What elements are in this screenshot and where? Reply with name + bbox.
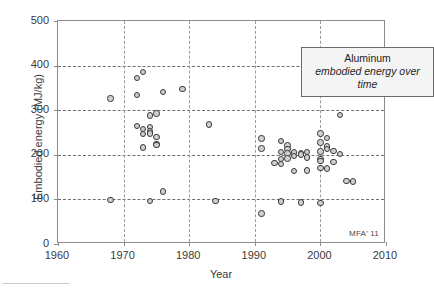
- scatter-point: [304, 154, 310, 160]
- scatter-point: [304, 167, 310, 173]
- tick-mark-y: [54, 199, 58, 200]
- scatter-point: [324, 146, 330, 152]
- gridline-vertical: [255, 21, 256, 242]
- tick-mark-x: [255, 242, 256, 246]
- tick-mark-x: [386, 242, 387, 246]
- x-tick-label: 1980: [168, 250, 208, 261]
- scatter-point: [298, 199, 304, 205]
- scatter-point: [284, 155, 290, 161]
- scatter-point: [317, 165, 323, 171]
- scatter-point: [153, 110, 159, 116]
- scatter-point: [134, 75, 140, 81]
- scatter-point: [153, 134, 159, 140]
- scatter-point: [140, 144, 146, 150]
- tick-mark-y: [54, 155, 58, 156]
- scatter-point: [147, 198, 153, 204]
- scatter-point: [317, 139, 323, 145]
- legend-box: Aluminum embodied energy over time: [301, 47, 434, 97]
- scatter-point: [258, 210, 264, 216]
- scatter-point: [258, 145, 264, 151]
- scatter-point: [291, 168, 297, 174]
- x-axis-title: Year: [57, 268, 385, 280]
- x-tick-label: 1960: [37, 250, 77, 261]
- scatter-point: [107, 95, 113, 101]
- y-tick-label: 500: [15, 15, 49, 26]
- scatter-point: [140, 69, 146, 75]
- scatter-point: [317, 200, 323, 206]
- scatter-point: [343, 178, 349, 184]
- scatter-point: [337, 151, 343, 157]
- tick-mark-y: [54, 110, 58, 111]
- scatter-point: [134, 92, 140, 98]
- scatter-point: [160, 188, 166, 194]
- tick-mark-y: [54, 66, 58, 67]
- scatter-point: [160, 89, 166, 95]
- scatter-point: [337, 112, 343, 118]
- bottom-divider: [2, 283, 70, 284]
- gridline-horizontal: [58, 110, 384, 111]
- scatter-point: [298, 151, 304, 157]
- y-tick-label: 0: [15, 238, 49, 249]
- scatter-point: [258, 135, 264, 141]
- scatter-point: [278, 138, 284, 144]
- tick-mark-y: [54, 21, 58, 22]
- scatter-point: [317, 130, 323, 136]
- legend-title: Aluminum: [308, 52, 427, 65]
- gridline-horizontal: [58, 155, 384, 156]
- tick-mark-x: [124, 242, 125, 246]
- scatter-point: [271, 160, 277, 166]
- x-tick-label: 2000: [299, 250, 339, 261]
- x-tick-label: 2010: [365, 250, 405, 261]
- scatter-point: [278, 161, 284, 167]
- scatter-point: [107, 197, 113, 203]
- scatter-point: [153, 142, 159, 148]
- gridline-vertical: [189, 21, 190, 242]
- scatter-point: [147, 130, 153, 136]
- scatter-point: [206, 121, 212, 127]
- legend-subtitle: embodied energy over time: [308, 65, 427, 91]
- tick-mark-x: [189, 242, 190, 246]
- tick-mark-x: [58, 242, 59, 246]
- scatter-point: [212, 198, 218, 204]
- y-axis-title: Embodied energy (MJ/kg): [32, 37, 44, 237]
- tick-mark-x: [320, 242, 321, 246]
- x-tick-label: 1970: [103, 250, 143, 261]
- scatter-point: [324, 165, 330, 171]
- scatter-point: [317, 158, 323, 164]
- scatter-point: [330, 159, 336, 165]
- gridline-vertical: [124, 21, 125, 242]
- scatter-point: [350, 178, 356, 184]
- scatter-point: [317, 148, 323, 154]
- scatter-point: [134, 123, 140, 129]
- x-tick-label: 1990: [234, 250, 274, 261]
- scatter-point: [330, 148, 336, 154]
- plot-area: Aluminum embodied energy over time MFA' …: [57, 20, 385, 243]
- credit-annotation: MFA' 11: [349, 229, 379, 238]
- scatter-point: [179, 86, 185, 92]
- scatter-point: [324, 135, 330, 141]
- scatter-point: [278, 198, 284, 204]
- scatter-point: [291, 153, 297, 159]
- scatter-point: [147, 112, 153, 118]
- scatter-point: [140, 131, 146, 137]
